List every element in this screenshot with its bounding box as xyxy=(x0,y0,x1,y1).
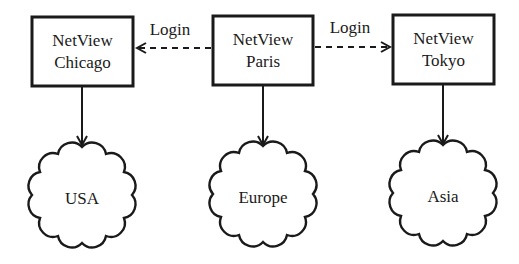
cloud-europe: Europe xyxy=(210,142,317,247)
node-netview-paris: NetView Paris xyxy=(213,16,313,85)
node-label-line1: NetView xyxy=(233,30,294,49)
cloud-label: Asia xyxy=(427,187,459,206)
node-label-line2: Chicago xyxy=(54,53,111,72)
network-diagram: NetView Chicago NetView Paris NetView To… xyxy=(0,0,519,264)
edge-paris-to-tokyo: Login xyxy=(315,18,390,47)
cloud-label: USA xyxy=(65,189,100,208)
edge-label-login: Login xyxy=(330,18,371,37)
node-label-line1: NetView xyxy=(52,31,113,50)
node-label-line1: NetView xyxy=(413,29,474,48)
edge-label-login: Login xyxy=(150,20,191,39)
cloud-asia: Asia xyxy=(390,141,497,246)
node-netview-tokyo: NetView Tokyo xyxy=(393,15,494,84)
node-netview-chicago: NetView Chicago xyxy=(32,17,133,86)
node-label-line2: Paris xyxy=(246,52,280,71)
cloud-usa: USA xyxy=(29,143,136,248)
node-label-line2: Tokyo xyxy=(422,51,465,70)
cloud-label: Europe xyxy=(238,188,287,207)
edge-paris-to-chicago: Login xyxy=(137,20,211,48)
